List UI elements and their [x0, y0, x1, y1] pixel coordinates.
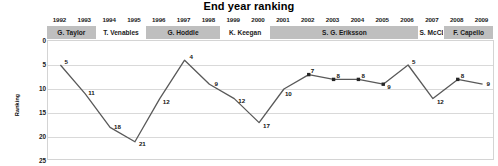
data-label: 8	[461, 72, 464, 79]
year-label-2002: 2002	[295, 14, 320, 25]
data-label: 12	[238, 97, 245, 104]
year-label-1997: 1997	[171, 14, 196, 25]
year-label-1995: 1995	[121, 14, 146, 25]
year-label-1998: 1998	[196, 14, 221, 25]
year-label-2000: 2000	[246, 14, 271, 25]
y-tick-label: 25	[6, 157, 46, 164]
y-tick-label: 20	[6, 133, 46, 140]
chart-container: End year ranking Ranking 0510152025 1992…	[0, 0, 498, 166]
line-series	[48, 41, 494, 160]
data-label: 8	[337, 72, 340, 79]
data-label: 17	[263, 122, 270, 129]
data-label: 18	[114, 123, 121, 130]
data-label: 11	[88, 89, 95, 96]
data-label: 8	[361, 72, 364, 79]
year-label-2003: 2003	[320, 14, 345, 25]
data-label: 12	[163, 98, 170, 105]
year-label-1999: 1999	[221, 14, 246, 25]
data-label: 12	[437, 98, 444, 105]
y-tick-label: 0	[6, 37, 46, 44]
year-label-1994: 1994	[97, 14, 122, 25]
data-label: 5	[412, 58, 415, 65]
manager-band-row: G. TaylorT. VenablesG. HoddleK. KeeganS.…	[47, 26, 494, 39]
manager-band: S. McCL.	[419, 26, 444, 39]
year-label-2004: 2004	[345, 14, 370, 25]
y-tick-label: 5	[6, 61, 46, 68]
year-label-2009: 2009	[469, 14, 494, 25]
year-label-1996: 1996	[146, 14, 171, 25]
manager-band: F. Capello	[444, 26, 494, 39]
manager-band: T. Venables	[97, 26, 147, 39]
year-label-2006: 2006	[395, 14, 420, 25]
year-label-2001: 2001	[270, 14, 295, 25]
y-tick-label: 10	[6, 85, 46, 92]
year-label-2005: 2005	[370, 14, 395, 25]
year-label-1993: 1993	[72, 14, 97, 25]
data-label: 9	[387, 83, 390, 90]
chart-title: End year ranking	[0, 0, 498, 13]
data-label: 5	[64, 58, 67, 65]
manager-band: G. Hoddle	[146, 26, 221, 39]
year-label-2008: 2008	[444, 14, 469, 25]
manager-band: K. Keegan	[221, 26, 271, 39]
plot-area: 51118211249121710788951289	[47, 40, 494, 160]
data-label: 10	[285, 90, 292, 97]
year-axis-labels: 1992199319941995199619971998199920002001…	[47, 14, 494, 25]
manager-band: S. G. Eriksson	[270, 26, 419, 39]
year-label-2007: 2007	[419, 14, 444, 25]
data-label: 9	[214, 80, 217, 87]
y-axis: Ranking 0510152025	[0, 0, 46, 166]
data-label: 7	[311, 67, 314, 74]
y-tick-label: 15	[6, 109, 46, 116]
data-label: 9	[487, 80, 490, 87]
data-label: 21	[139, 140, 146, 147]
year-label-1992: 1992	[47, 14, 72, 25]
manager-band: G. Taylor	[47, 26, 97, 39]
data-label: 4	[190, 53, 193, 60]
